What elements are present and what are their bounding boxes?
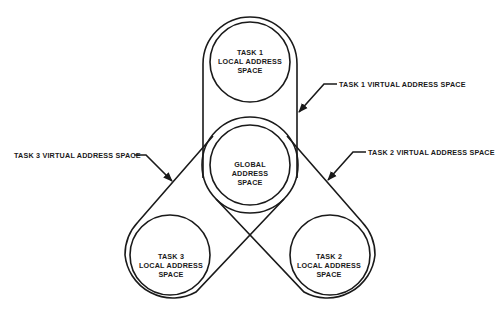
task1-callout-arrow (299, 84, 337, 112)
task1-virtual-callout: TASK 1 VIRTUAL ADDRESS SPACE (299, 80, 466, 112)
global-label: GLOBAL ADDRESS SPACE (232, 160, 269, 187)
task3-virtual-callout: TASK 3 VIRTUAL ADDRESS SPACE (14, 151, 172, 181)
svg-text:LOCAL ADDRESS: LOCAL ADDRESS (139, 261, 203, 270)
task2-local-label: TASK 2 LOCAL ADDRESS SPACE (297, 252, 361, 279)
svg-text:ADDRESS: ADDRESS (232, 169, 269, 178)
task2-callout-arrow (328, 152, 366, 180)
svg-text:SPACE: SPACE (158, 270, 183, 279)
svg-text:TASK 3: TASK 3 (158, 252, 184, 261)
svg-text:TASK 2: TASK 2 (316, 252, 342, 261)
svg-text:TASK 1: TASK 1 (237, 48, 263, 57)
task2-virtual-callout: TASK 2 VIRTUAL ADDRESS SPACE (328, 148, 495, 180)
svg-text:TASK 2 VIRTUAL ADDRESS SPACE: TASK 2 VIRTUAL ADDRESS SPACE (368, 148, 495, 157)
svg-text:SPACE: SPACE (237, 178, 262, 187)
svg-text:TASK 1 VIRTUAL ADDRESS SPACE: TASK 1 VIRTUAL ADDRESS SPACE (339, 80, 466, 89)
task1-virtual-space-outline (203, 17, 297, 178)
task1-local-label: TASK 1 LOCAL ADDRESS SPACE (218, 48, 282, 75)
svg-text:LOCAL ADDRESS: LOCAL ADDRESS (218, 57, 282, 66)
task3-local-label: TASK 3 LOCAL ADDRESS SPACE (139, 252, 203, 279)
svg-text:SPACE: SPACE (237, 66, 262, 75)
svg-text:GLOBAL: GLOBAL (234, 160, 266, 169)
svg-text:SPACE: SPACE (316, 270, 341, 279)
svg-text:TASK 3 VIRTUAL ADDRESS SPACE: TASK 3 VIRTUAL ADDRESS SPACE (14, 151, 141, 160)
svg-text:LOCAL ADDRESS: LOCAL ADDRESS (297, 261, 361, 270)
address-space-diagram: TASK 1 LOCAL ADDRESS SPACE GLOBAL ADDRES… (0, 0, 500, 316)
